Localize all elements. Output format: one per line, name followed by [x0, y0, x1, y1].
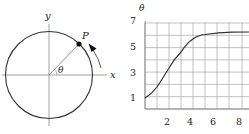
x-tick-8: 8 [236, 116, 242, 127]
y-tick-7: 7 [130, 15, 136, 26]
angle-arc [55, 69, 58, 75]
theta-curve [145, 32, 249, 98]
x-tick-2: 2 [164, 116, 170, 127]
theta-graph: θ 7 5 3 1 2 4 6 8 [130, 3, 249, 127]
y-axis-label: y [44, 10, 51, 21]
x-tick-6: 6 [210, 116, 216, 127]
x-tick-4: 4 [187, 116, 193, 127]
figure: y x P θ θ 7 [0, 0, 249, 134]
arrowhead-icon [89, 44, 97, 53]
grid [145, 23, 249, 109]
angle-theta-label: θ [58, 65, 64, 75]
rotation-arrow-arc [93, 50, 101, 68]
y-tick-3: 3 [130, 67, 136, 78]
point-p-marker [76, 41, 81, 46]
point-p-label: P [81, 30, 89, 41]
x-axis-label: x [110, 69, 116, 80]
unit-circle-diagram: y x P θ [2, 10, 116, 126]
graph-y-axis-label: θ [139, 3, 145, 13]
y-tick-1: 1 [130, 92, 136, 103]
y-tick-5: 5 [130, 41, 136, 52]
radius-line [49, 44, 79, 75]
